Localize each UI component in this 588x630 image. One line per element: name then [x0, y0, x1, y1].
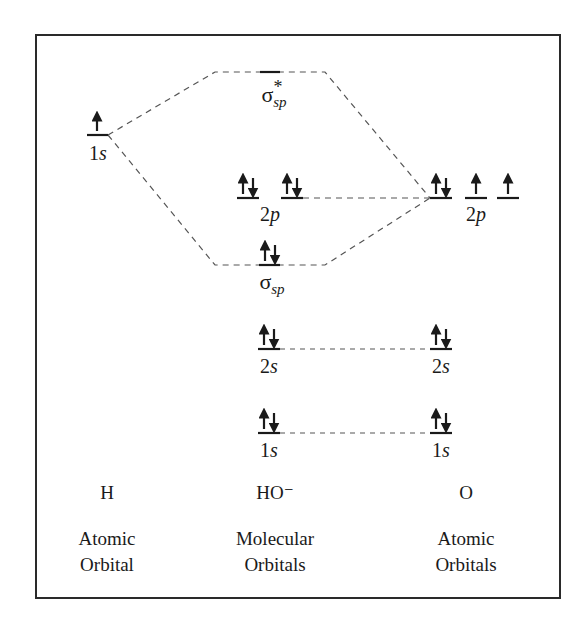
o-1s-label: 1s	[432, 440, 450, 460]
caption-line-2: Orbitals	[435, 552, 496, 578]
sigma-symbol: σ	[261, 82, 273, 107]
species-label: H	[79, 480, 136, 506]
o-2p-label: 2p	[466, 204, 486, 224]
label-number: 2	[466, 203, 476, 225]
sigma-star-label: σsp*	[261, 78, 282, 110]
column-ho: HO⁻ Molecular Orbitals	[236, 480, 314, 578]
caption-line-2: Orbital	[79, 552, 136, 578]
energy-levels	[87, 72, 519, 433]
caption-line-1: Atomic	[79, 526, 136, 552]
h-1s-label: 1s	[89, 143, 107, 163]
label-subshell: s	[442, 355, 450, 377]
label-number: 2	[260, 355, 270, 377]
sigma-correlation	[108, 135, 430, 265]
column-o: O Atomic Orbitals	[435, 480, 496, 578]
mo-2p-label: 2p	[260, 204, 280, 224]
caption-line-1: Atomic	[435, 526, 496, 552]
mo-1s-label: 1s	[260, 440, 278, 460]
label-number: 1	[260, 439, 270, 461]
column-h: H Atomic Orbital	[79, 480, 136, 578]
antibonding-star: *	[274, 77, 283, 97]
label-number: 1	[432, 439, 442, 461]
o-2s-label: 2s	[432, 356, 450, 376]
label-subshell: p	[476, 203, 486, 225]
electrons	[97, 116, 508, 429]
label-subshell: s	[270, 355, 278, 377]
label-number: 1	[89, 142, 99, 164]
label-subshell: p	[270, 203, 280, 225]
label-number: 2	[260, 203, 270, 225]
label-subshell: s	[99, 142, 107, 164]
caption-line-1: Molecular	[236, 526, 314, 552]
label-subshell: s	[270, 439, 278, 461]
label-subshell: s	[442, 439, 450, 461]
mo-2s-label: 2s	[260, 356, 278, 376]
caption-line-2: Orbitals	[236, 552, 314, 578]
correlation-lines	[108, 72, 430, 433]
label-number: 2	[432, 355, 442, 377]
sigma-symbol: σ	[259, 269, 271, 294]
sigma-subscript: sp	[271, 281, 284, 297]
sigma-label: σsp	[259, 271, 284, 297]
species-label: O	[435, 480, 496, 506]
species-label: HO⁻	[236, 480, 314, 506]
